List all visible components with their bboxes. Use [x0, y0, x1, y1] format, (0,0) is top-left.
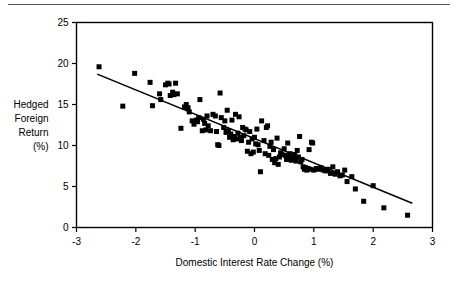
- data-point: [353, 186, 358, 191]
- data-point: [328, 171, 333, 176]
- data-point: [218, 91, 223, 96]
- data-point: [175, 91, 180, 96]
- data-point: [197, 97, 202, 102]
- data-point: [275, 136, 280, 141]
- data-point: [257, 148, 262, 153]
- data-point: [256, 142, 261, 147]
- x-tick-label: 3: [430, 236, 436, 247]
- data-point: [157, 91, 162, 96]
- data-point: [342, 168, 347, 173]
- x-tick-label: 0: [252, 236, 258, 247]
- data-point: [239, 138, 244, 143]
- data-point: [247, 129, 252, 134]
- x-tick-label: -1: [191, 236, 200, 247]
- x-tick-label: 1: [311, 236, 317, 247]
- data-point: [178, 126, 183, 131]
- y-axis-title-line: Foreign: [15, 113, 49, 124]
- y-tick-label: 5: [63, 181, 69, 192]
- data-point: [405, 213, 410, 218]
- y-tick-label: 0: [63, 222, 69, 233]
- data-point: [222, 118, 227, 123]
- data-point: [254, 127, 259, 132]
- y-tick-label: 20: [57, 58, 69, 69]
- y-axis-title: HedgedForeignReturn(%): [13, 99, 48, 152]
- x-tick-label: -2: [131, 236, 140, 247]
- data-point: [167, 82, 172, 87]
- data-point: [310, 141, 315, 146]
- x-axis-title: Domestic Interest Rate Change (%): [176, 257, 334, 268]
- data-point: [285, 141, 290, 146]
- data-point: [307, 147, 312, 152]
- x-tick-label: 2: [370, 236, 376, 247]
- data-point: [259, 118, 264, 123]
- data-point: [295, 148, 300, 153]
- data-point: [258, 169, 263, 174]
- chart-figure: 0510152025 -3-2-10123 HedgedForeignRetur…: [0, 0, 453, 285]
- data-point: [206, 123, 211, 128]
- data-point: [229, 118, 234, 123]
- y-axis-title-line: Hedged: [13, 99, 48, 110]
- data-point: [330, 164, 335, 169]
- data-point: [276, 162, 281, 167]
- trend-line: [97, 74, 412, 203]
- data-point: [120, 104, 125, 109]
- y-tick-label: 10: [57, 140, 69, 151]
- data-point: [251, 150, 256, 155]
- y-axis-tick-labels: 0510152025: [57, 17, 69, 233]
- data-point: [150, 103, 155, 108]
- y-axis-title-line: Return: [18, 127, 48, 138]
- x-axis-title-text: Domestic Interest Rate Change (%): [176, 257, 334, 268]
- data-point: [237, 114, 242, 119]
- data-point: [132, 71, 137, 76]
- data-point: [216, 143, 221, 148]
- y-axis-title-line: (%): [33, 141, 49, 152]
- data-point: [97, 64, 102, 69]
- data-point: [225, 108, 230, 113]
- data-point: [297, 134, 302, 139]
- data-point-markers: [97, 64, 411, 217]
- scatter-plot-svg: 0510152025 -3-2-10123 HedgedForeignRetur…: [0, 0, 453, 285]
- y-tick-label: 25: [57, 17, 69, 28]
- data-point: [345, 179, 350, 184]
- x-tick-label: -3: [72, 236, 81, 247]
- plot-frame: [77, 23, 433, 228]
- data-point: [208, 128, 213, 133]
- y-tick-label: 15: [57, 99, 69, 110]
- x-axis-tick-labels: -3-2-10123: [72, 236, 436, 247]
- data-point: [214, 129, 219, 134]
- data-point: [213, 113, 218, 118]
- data-point: [148, 80, 153, 85]
- data-point: [173, 81, 178, 86]
- data-point: [361, 199, 366, 204]
- data-point: [381, 205, 386, 210]
- plot-border: [77, 23, 433, 228]
- trend-line-segment: [97, 74, 412, 203]
- data-point: [265, 123, 270, 128]
